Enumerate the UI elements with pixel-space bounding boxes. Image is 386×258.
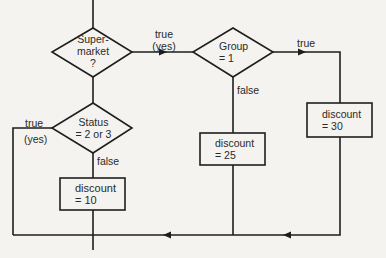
decision-group-line2: = 1 [219,52,248,64]
process-discount25-line2: = 25 [215,149,254,161]
process-discount30-line2: = 30 [322,120,361,132]
decision-status-line1: Status [66,116,121,128]
edge-group-true [273,52,340,103]
edge-label-yes: (yes) [148,40,180,52]
decision-status: Status = 2 or 3 [66,116,121,140]
decision-group-line1: Group [219,40,248,52]
edge-label-group-false: false [237,84,259,96]
edge-label-group-true: true [297,37,315,49]
process-discount30: discount = 30 [322,108,361,132]
process-discount10: discount = 10 [75,182,116,206]
edge-label-status-true: true [25,117,43,129]
process-discount25: discount = 25 [215,137,254,161]
decision-group: Group = 1 [219,40,248,64]
process-discount10-line2: = 10 [75,194,116,206]
edge-label-true: true [148,28,180,40]
process-discount25-line1: discount [215,137,254,149]
decision-supermarket-line2: market [72,45,114,57]
arrow-right-icon [298,49,306,56]
decision-supermarket-line3: ? [72,57,114,69]
process-discount10-line1: discount [75,182,116,194]
edge-label-status-yes: (yes) [24,133,47,145]
arrow-left-icon [163,232,171,239]
edge-label-supermarket-true: true (yes) [148,28,180,52]
process-discount30-line1: discount [322,108,361,120]
decision-supermarket-line1: Super- [72,33,114,45]
decision-supermarket: Super- market ? [72,33,114,69]
edge-label-status-false: false [97,155,119,167]
arrow-left-icon [283,232,291,239]
decision-status-line2: = 2 or 3 [66,128,121,140]
